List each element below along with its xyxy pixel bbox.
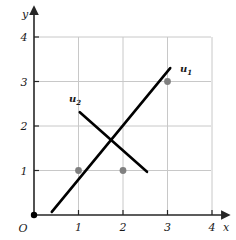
data-point-1-1	[75, 167, 82, 174]
x-tick-label-3: 3	[164, 221, 171, 234]
origin-point	[31, 212, 37, 218]
data-point-3-3	[164, 78, 171, 85]
data-point-2-1	[120, 167, 127, 174]
origin-label: O	[18, 222, 27, 235]
y-tick-labels: 1 2 3 4	[20, 31, 28, 178]
x-axis-label: x	[223, 221, 230, 234]
y-axis-label: y	[21, 8, 29, 21]
vector-lines	[52, 68, 170, 212]
u1-label: u1	[180, 63, 192, 77]
coordinate-plot: 1 2 3 4 1 2 3 4 x y O	[0, 0, 236, 240]
axis-lines	[34, 14, 222, 215]
y-tick-label-4: 4	[20, 31, 28, 44]
u1-label-subscript: 1	[187, 68, 192, 77]
y-tick-label-1: 1	[21, 165, 28, 178]
x-tick-label-1: 1	[75, 221, 82, 234]
x-tick-label-2: 2	[119, 221, 127, 234]
u2-label-subscript: 2	[75, 98, 81, 107]
u2-line-segment	[80, 112, 147, 172]
data-points	[31, 78, 171, 218]
u2-label: u2	[69, 93, 81, 107]
u2-label-letter: u	[69, 93, 76, 104]
figure-container: 1 2 3 4 1 2 3 4 x y O	[0, 0, 236, 240]
y-tick-label-3: 3	[21, 76, 28, 89]
y-tick-label-2: 2	[20, 120, 28, 133]
u1-label-letter: u	[180, 63, 187, 74]
x-tick-label-4: 4	[208, 221, 216, 234]
x-tick-labels: 1 2 3 4	[75, 221, 216, 234]
